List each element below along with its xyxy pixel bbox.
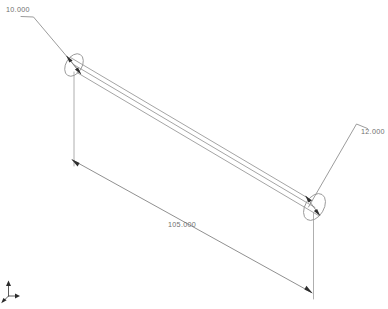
diameter-right-leader-line: [309, 124, 368, 207]
rod-seam-line: [74, 65, 316, 208]
triad-vertical-axis-arrow-head: [6, 281, 11, 287]
dimension-diameter-left[interactable]: 10.000: [6, 5, 81, 74]
rod-bottom-silhouette-line: [77, 73, 319, 216]
length-arrow-head-left: [71, 159, 79, 167]
cad-drawing-canvas[interactable]: 10.000 12.000 105.000: [0, 0, 388, 309]
length-overall-label: 105.000: [168, 220, 196, 229]
length-arrow-head-right: [304, 286, 312, 294]
rod-body-geometry: [61, 50, 330, 224]
origin-axis-triad: [1, 281, 20, 304]
dimension-diameter-right[interactable]: 12.000: [305, 124, 385, 216]
diameter-left-label: 10.000: [6, 5, 30, 14]
triad-horizontal-axis-arrow-head: [15, 294, 20, 299]
diameter-right-label: 12.000: [361, 127, 385, 136]
cad-drawing-svg[interactable]: 10.000 12.000 105.000: [0, 0, 388, 309]
